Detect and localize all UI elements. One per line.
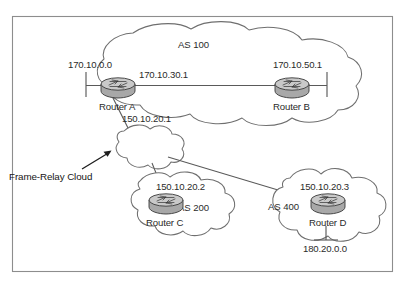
network-diagram-figure: AS 100 Frame-Relay Cloud AS 200 AS 400 [0, 0, 405, 288]
router-d-icon [311, 194, 345, 214]
diagram-canvas: AS 100 Frame-Relay Cloud AS 200 AS 400 [0, 0, 405, 288]
router-a-serial-label: 150.10.20.1 [122, 113, 171, 124]
as100-label: AS 100 [178, 39, 209, 50]
router-a-interface-label: 170.10.30.1 [139, 69, 188, 80]
router-a-network-label: 170.10.0.0 [68, 59, 112, 70]
router-d-network-label: 180.20.0.0 [303, 243, 347, 254]
router-d-name-label: Router D [309, 217, 346, 228]
router-b-icon [275, 78, 309, 98]
frame-relay-callout-label: Frame-Relay Cloud [9, 171, 92, 182]
router-d-interface-label: 150.10.20.3 [300, 181, 349, 192]
router-b-interface-label: 170.10.50.1 [273, 59, 322, 70]
router-a-name-label: Router A [99, 101, 136, 112]
router-c-name-label: Router C [146, 217, 183, 228]
as400-label: AS 400 [268, 201, 299, 212]
router-c-interface-label: 150.10.20.2 [156, 181, 205, 192]
router-a-icon [101, 78, 135, 98]
router-b-name-label: Router B [273, 101, 310, 112]
router-c-icon [149, 194, 183, 214]
